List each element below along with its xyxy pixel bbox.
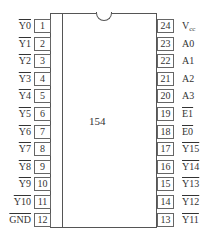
chip-inner-border (62, 14, 63, 227)
pin-number-box: 4 (34, 72, 51, 86)
pin-label: GND (9, 214, 31, 226)
pin-label-subscript: cc (189, 25, 195, 33)
pin-label: Y14 (182, 161, 199, 173)
pin-label: Y4 (19, 90, 31, 102)
chip-body: 154 (50, 13, 157, 228)
pin-number-box: 16 (157, 160, 174, 174)
pin-number-box: 9 (34, 160, 51, 174)
pin-number-box: 24 (157, 19, 174, 33)
pin-label-text: A1 (182, 55, 194, 66)
pin-label-text: Y12 (182, 196, 199, 207)
pin-number-box: 1 (34, 19, 51, 33)
pin-label: Y9 (19, 178, 31, 190)
chip-pinout-diagram: 154 1Y02Y13Y24Y35Y46Y57Y68Y79Y810Y911Y10… (0, 0, 213, 242)
pin-label-text: Y14 (182, 161, 199, 172)
pin-number-box: 10 (34, 177, 51, 191)
chip-notch-icon (96, 12, 112, 21)
pin-number-box: 13 (157, 213, 174, 227)
pin-number-box: 23 (157, 37, 174, 51)
pin-label-text: Y11 (182, 214, 199, 225)
pin-label-text: A0 (182, 38, 194, 49)
pin-label: A2 (182, 73, 194, 85)
pin-label-text: Y13 (182, 178, 199, 189)
pin-label: E1 (182, 108, 193, 120)
pin-label: Y11 (182, 214, 199, 226)
pin-number-box: 8 (34, 142, 51, 156)
pin-number-box: 2 (34, 37, 51, 51)
pin-label-text: Y15 (182, 143, 199, 154)
pin-number-box: 12 (34, 213, 51, 227)
pin-label: Y2 (19, 55, 31, 67)
pin-number-box: 7 (34, 125, 51, 139)
pin-label: Y12 (182, 196, 199, 208)
chip-name: 154 (89, 115, 106, 127)
pin-label: Y10 (14, 196, 31, 208)
pin-label-text: A3 (182, 90, 194, 101)
pin-number-box: 14 (157, 195, 174, 209)
pin-label: A3 (182, 90, 194, 102)
pin-number-box: 17 (157, 142, 174, 156)
pin-number-box: 21 (157, 72, 174, 86)
pin-number-box: 3 (34, 54, 51, 68)
pin-number-box: 5 (34, 89, 51, 103)
pin-label: E0 (182, 126, 193, 138)
pin-label-text: A2 (182, 73, 194, 84)
pin-label: Y0 (19, 20, 31, 32)
pin-number-box: 20 (157, 89, 174, 103)
pin-label: Y1 (19, 38, 31, 50)
pin-label: Y7 (19, 143, 31, 155)
pin-label-text: E0 (182, 126, 193, 137)
pin-label: Vcc (182, 20, 195, 35)
pin-number-box: 11 (34, 195, 51, 209)
pin-label: Y5 (19, 108, 31, 120)
pin-label: Y3 (19, 73, 31, 85)
pin-label: A1 (182, 55, 194, 67)
pin-label: Y15 (182, 143, 199, 155)
pin-label: Y13 (182, 178, 199, 190)
pin-number-box: 19 (157, 107, 174, 121)
pin-number-box: 22 (157, 54, 174, 68)
pin-number-box: 6 (34, 107, 51, 121)
pin-label-text: E1 (182, 108, 193, 119)
pin-label: Y8 (19, 161, 31, 173)
pin-number-box: 18 (157, 125, 174, 139)
pin-label: Y6 (19, 126, 31, 138)
pin-label: A0 (182, 38, 194, 50)
pin-number-box: 15 (157, 177, 174, 191)
